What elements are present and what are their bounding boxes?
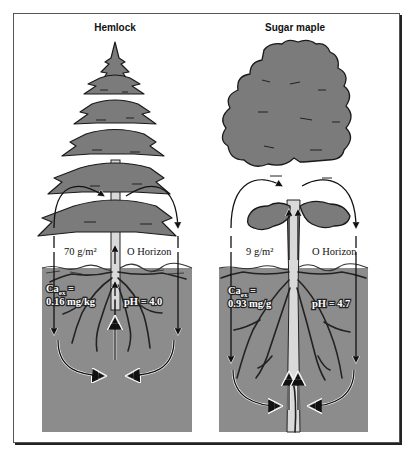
sugar-maple-ca-value: 0.93 mg/g: [228, 298, 272, 309]
hemlock-crown: [38, 42, 176, 236]
sugar-maple-ph-label: pH = 4.7: [312, 298, 350, 309]
hemlock-o-horizon-label: O Horizon: [127, 246, 172, 257]
hemlock-panel: 70 g/m² O Horizon Caex = 0.16 mg/kg pH =…: [38, 42, 192, 432]
hemlock-ph-label: pH = 4.0: [124, 296, 162, 307]
sugar-maple-o-horizon-label: O Horizon: [312, 246, 357, 257]
sugar-maple-litter-mass: 9 g/m²: [246, 246, 273, 257]
sugar-maple-panel: 9 g/m² O Horizon Caex = 0.93 mg/g pH = 4…: [219, 40, 368, 432]
nutrient-cycling-diagram: 70 g/m² O Horizon Caex = 0.16 mg/kg pH =…: [0, 0, 411, 456]
hemlock-ca-value: 0.16 mg/kg: [46, 296, 96, 307]
hemlock-litter-mass: 70 g/m²: [64, 246, 97, 257]
